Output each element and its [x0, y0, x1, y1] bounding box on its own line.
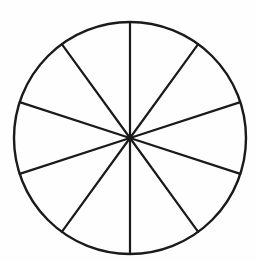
sector-9: [130, 44, 240, 138]
diagram-canvas: Circle divided into ten equal sectors: [0, 0, 256, 261]
sector-10: [130, 22, 198, 138]
sector-divider-group: [20, 22, 241, 254]
sector-divider-8: [130, 138, 240, 174]
fraction-circle-figure: [0, 0, 256, 261]
sector-divider-10: [130, 44, 198, 138]
sector-divider-7: [130, 138, 198, 232]
sector-5: [62, 138, 130, 254]
sector-divider-5: [62, 138, 130, 232]
sector-divider-2: [62, 44, 130, 138]
sector-1: [62, 22, 130, 138]
sector-6: [130, 138, 198, 254]
sector-divider-9: [130, 102, 240, 138]
sector-4: [20, 138, 130, 232]
sector-divider-4: [20, 138, 130, 174]
sector-7: [130, 138, 240, 232]
sector-divider-3: [20, 102, 130, 138]
sector-2: [20, 44, 130, 138]
